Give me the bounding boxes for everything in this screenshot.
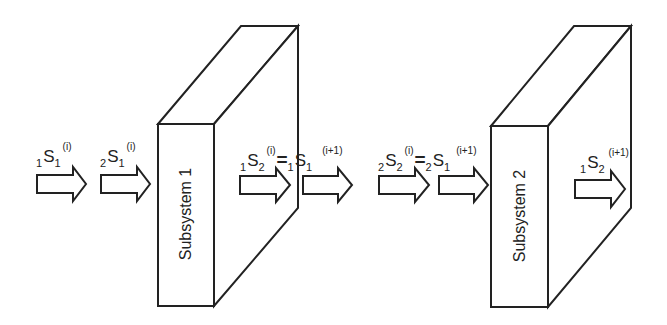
- pre-index: 2: [100, 157, 106, 169]
- arrow-icon-1: [37, 167, 86, 201]
- base-symbol: S: [43, 147, 54, 166]
- pre-index: 1: [36, 157, 42, 169]
- equals-sign: =: [414, 149, 425, 170]
- base-symbol: S: [107, 147, 118, 166]
- pre-index: 1: [288, 161, 294, 173]
- arrow-icon-6: [439, 168, 488, 202]
- sup-index: (i): [405, 145, 414, 156]
- sub-index: 2: [258, 161, 264, 173]
- sup-index: (i): [127, 141, 136, 152]
- pre-index: 1: [240, 161, 246, 173]
- pre-index: 2: [426, 161, 432, 173]
- sup-index: (i+1): [609, 147, 629, 158]
- pre-index: 2: [378, 161, 384, 173]
- sub-index: 1: [118, 157, 124, 169]
- base-symbol: S: [587, 153, 598, 172]
- sup-index: (i+1): [456, 145, 476, 156]
- signal-label-1S2-next: 1S2(i+1): [580, 154, 629, 171]
- pre-index: 1: [580, 163, 586, 175]
- base-symbol: S: [247, 151, 258, 170]
- signal-label-2S1-i: 2S1(i): [100, 148, 135, 165]
- sub-index: 2: [396, 161, 402, 173]
- sup-index: (i): [267, 145, 276, 156]
- signal-label-1S1-i: 1S1(i): [36, 148, 71, 165]
- subsystem-1-label: Subsystem 1: [177, 154, 195, 274]
- sub-index: 2: [598, 163, 604, 175]
- equals-sign: =: [276, 149, 287, 170]
- arrow-icon-2: [101, 167, 150, 201]
- sub-index: 1: [54, 157, 60, 169]
- base-symbol: S: [295, 151, 306, 170]
- signal-label-1S2-eq-1S1-next: 1S2(i)=1S1(i+1): [240, 150, 342, 169]
- signal-label-2S2-eq-2S1-next: 2S2(i)=2S1(i+1): [378, 150, 476, 169]
- sup-index: (i+1): [322, 145, 342, 156]
- base-symbol: S: [385, 151, 396, 170]
- base-symbol: S: [433, 151, 444, 170]
- arrow-icon-5: [379, 168, 429, 202]
- sub-index: 1: [444, 161, 450, 173]
- subsystem-2-label: Subsystem 2: [511, 156, 529, 276]
- arrow-icon-4: [303, 168, 352, 202]
- sub-index: 1: [306, 161, 312, 173]
- sup-index: (i): [63, 141, 72, 152]
